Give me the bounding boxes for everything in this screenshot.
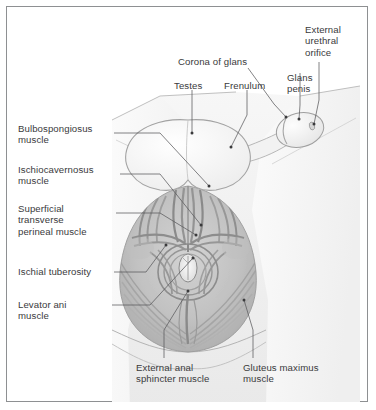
label-superficial-transverse-perineal-muscle: Superficial transverse perineal muscle [18,203,112,237]
label-corona-of-glans: Corona of glans [178,56,247,67]
label-external-anal-sphincter-muscle: External anal sphincter muscle [136,362,236,385]
label-frenulum: Frenulum [224,80,265,91]
label-ischial-tuberosity: Ischial tuberosity [18,266,118,277]
label-bulbospongiosus-muscle: Bulbospongiosus muscle [18,123,110,146]
label-external-urethral-orifice: External urethral orifice [305,24,341,58]
label-ischiocavernosus-muscle: Ischiocavernosus muscle [18,164,114,187]
scrotum [126,120,250,191]
label-testes: Testes [174,80,202,91]
label-levator-ani-muscle: Levator ani muscle [18,299,108,322]
label-glans-penis: Glans penis [287,72,313,95]
label-gluteus-maximus-muscle: Gluteus maximus muscle [243,362,347,385]
